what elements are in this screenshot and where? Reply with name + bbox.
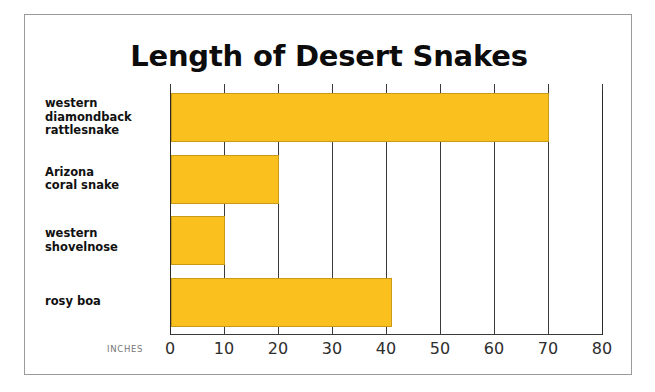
category-label-0-line-1: diamondback (45, 111, 167, 125)
bar-2 (171, 216, 225, 265)
x-axis-tick-labels: 01020304050607080 (170, 339, 630, 363)
tickmark-top-0 (170, 84, 171, 90)
category-label-2-line-0: western (45, 227, 167, 241)
category-label-0: westerndiamondbackrattlesnake (45, 97, 167, 138)
x-tick-label-0: 0 (150, 339, 190, 358)
x-tick-label-20: 20 (258, 339, 298, 358)
figure-frame: Length of Desert Snakes westerndiamondba… (24, 14, 632, 375)
plot-area (170, 89, 602, 335)
x-axis-title: INCHES (107, 344, 143, 354)
tickmark-top-40 (386, 84, 387, 90)
category-axis-labels: westerndiamondbackrattlesnakeArizonacora… (45, 89, 167, 335)
chart-page: Length of Desert Snakes westerndiamondba… (0, 0, 655, 392)
tickmark-top-20 (278, 84, 279, 90)
bar-3 (171, 278, 392, 327)
category-label-1: Arizonacoral snake (45, 166, 167, 193)
x-tick-label-30: 30 (312, 339, 352, 358)
x-tick-label-40: 40 (366, 339, 406, 358)
gridline-80 (602, 89, 603, 335)
x-tick-label-50: 50 (420, 339, 460, 358)
tickmark-top-30 (332, 84, 333, 90)
category-label-0-line-2: rattlesnake (45, 124, 167, 138)
category-label-2: westernshovelnose (45, 227, 167, 254)
chart-title: Length of Desert Snakes (25, 39, 633, 73)
x-tick-label-70: 70 (528, 339, 568, 358)
category-label-3-line-0: rosy boa (45, 295, 167, 309)
tickmark-top-70 (548, 84, 549, 90)
category-label-1-line-0: Arizona (45, 166, 167, 180)
bar-1 (171, 155, 279, 204)
category-label-2-line-1: shovelnose (45, 241, 167, 255)
tickmark-top-80 (602, 84, 603, 90)
tickmark-top-60 (494, 84, 495, 90)
bar-0 (171, 93, 549, 142)
category-label-0-line-0: western (45, 97, 167, 111)
x-tick-label-60: 60 (474, 339, 514, 358)
x-tick-label-10: 10 (204, 339, 244, 358)
category-label-3: rosy boa (45, 295, 167, 309)
tickmark-top-10 (224, 84, 225, 90)
x-tick-label-80: 80 (582, 339, 622, 358)
category-label-1-line-1: coral snake (45, 179, 167, 193)
tickmark-top-50 (440, 84, 441, 90)
